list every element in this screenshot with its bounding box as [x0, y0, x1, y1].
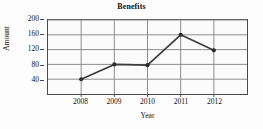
x-axis-tick-label: 2010	[140, 97, 155, 106]
data-point	[79, 77, 83, 81]
chart-figure: Benefits Amount 2001601208040 2008200920…	[0, 0, 263, 129]
x-axis-title: Year	[47, 111, 248, 120]
x-axis-tick-labels: 20082009201020112012	[47, 97, 248, 109]
data-series-line	[48, 20, 247, 94]
y-axis-tick-mark	[40, 80, 44, 81]
x-axis-tick-label: 2008	[73, 97, 88, 106]
data-point	[179, 33, 183, 37]
data-point	[145, 63, 149, 67]
y-axis-tick-label: 200	[28, 15, 39, 23]
y-axis-tick-label: 80	[32, 61, 40, 69]
x-axis-tick-label: 2011	[174, 97, 189, 106]
y-axis-tick-mark	[40, 49, 44, 50]
chart-title: Benefits	[0, 2, 263, 11]
y-axis-tick-mark	[40, 65, 44, 66]
plot-area	[47, 19, 248, 95]
y-axis-tick-label: 160	[28, 30, 39, 38]
y-axis-tick-label: 120	[28, 46, 39, 54]
y-axis-tick-mark	[40, 34, 44, 35]
y-axis-tick-label: 40	[32, 76, 40, 84]
x-axis-tick-label: 2009	[107, 97, 122, 106]
data-point	[212, 48, 216, 52]
y-axis-tick-mark	[40, 19, 44, 20]
y-axis-tick-labels: 2001601208040	[0, 19, 44, 95]
x-axis-tick-label: 2012	[207, 97, 222, 106]
data-point	[112, 62, 116, 66]
